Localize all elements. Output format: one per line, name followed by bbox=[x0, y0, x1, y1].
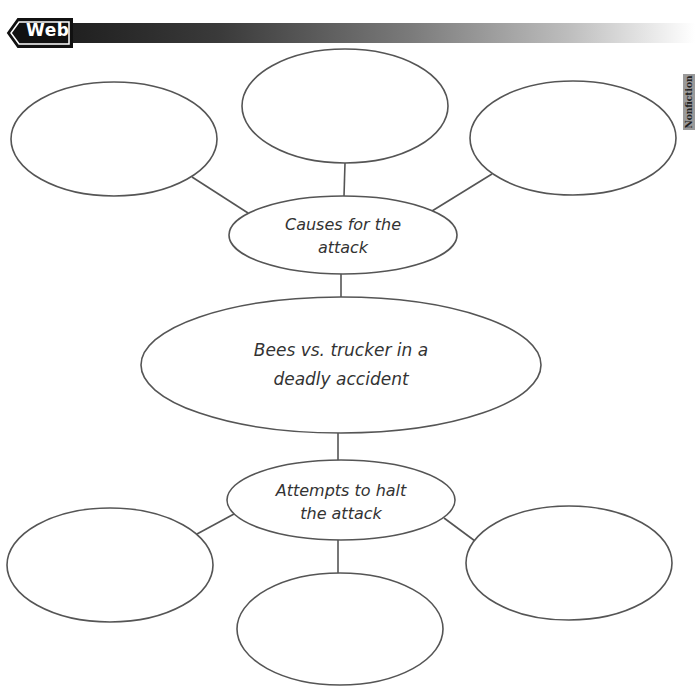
lower-hub-line1: Attempts to halt bbox=[276, 479, 407, 502]
upper-hub-label: Causes for the attack bbox=[285, 213, 401, 259]
empty-bubble-bottom-right[interactable] bbox=[466, 506, 672, 620]
center-topic-line1: Bees vs. trucker in a bbox=[254, 336, 428, 365]
connector-upper-left bbox=[192, 177, 248, 213]
connector-upper-right bbox=[432, 174, 492, 211]
upper-hub-line1: Causes for the bbox=[285, 213, 401, 236]
connector-lower-left bbox=[197, 514, 234, 534]
connector-lower-right bbox=[444, 518, 475, 541]
empty-bubble-top-left[interactable] bbox=[11, 82, 217, 196]
web-organizer-page: Web Nonfiction bbox=[0, 0, 695, 686]
connector-upper-center bbox=[344, 163, 345, 196]
empty-bubble-bottom-left[interactable] bbox=[7, 508, 213, 622]
center-topic-label: Bees vs. trucker in a deadly accident bbox=[254, 336, 428, 394]
lower-hub-label: Attempts to halt the attack bbox=[276, 479, 407, 525]
lower-hub-line2: the attack bbox=[276, 502, 407, 525]
empty-bubble-bottom-center[interactable] bbox=[237, 573, 443, 685]
upper-hub-line2: attack bbox=[285, 236, 401, 259]
center-topic-line2: deadly accident bbox=[254, 365, 428, 394]
empty-bubble-top-right[interactable] bbox=[470, 81, 676, 195]
empty-bubble-top-center[interactable] bbox=[242, 49, 448, 163]
